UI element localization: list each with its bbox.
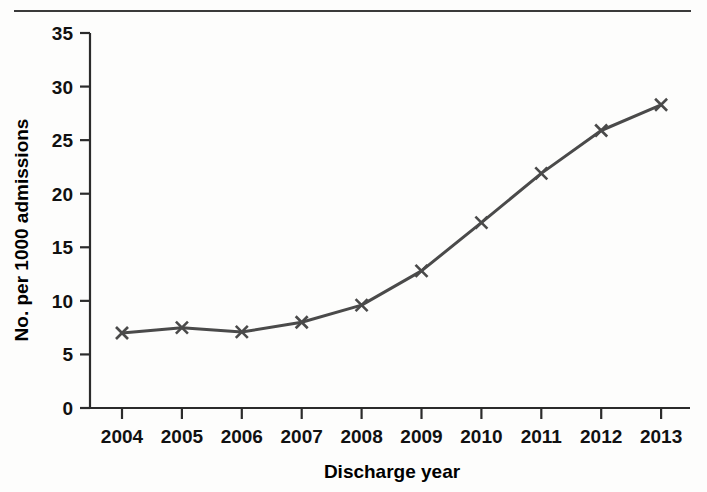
x-axis-tick-label: 2008	[340, 426, 382, 447]
x-axis-tick-label: 2004	[101, 426, 144, 447]
data-series-line	[122, 105, 661, 333]
x-axis-tick-label: 2011	[521, 426, 563, 447]
y-axis	[80, 33, 90, 408]
x-axis-tick-label: 2013	[640, 426, 682, 447]
x-axis-tick-label: 2005	[161, 426, 204, 447]
data-point-markers	[116, 99, 667, 339]
data-point-marker	[416, 265, 428, 277]
data-point-marker	[535, 167, 547, 179]
data-point-marker	[475, 217, 487, 229]
x-axis-tick-labels: 2004200520062007200820092010201120122013	[101, 426, 682, 447]
data-point-marker	[655, 99, 667, 111]
line-chart: 05101520253035 2004200520062007200820092…	[0, 0, 707, 492]
series-line	[122, 105, 661, 333]
x-axis-tick-label: 2012	[580, 426, 622, 447]
y-axis-tick-label: 30	[52, 77, 73, 98]
y-axis-tick-label: 20	[52, 184, 73, 205]
y-axis-tick-label: 0	[62, 398, 73, 419]
y-axis-tick-labels: 05101520253035	[52, 23, 74, 419]
chart-figure: 05101520253035 2004200520062007200820092…	[0, 0, 707, 492]
y-axis-tick-label: 10	[52, 291, 73, 312]
y-axis-tick-label: 25	[52, 130, 74, 151]
y-axis-tick-label: 5	[62, 344, 73, 365]
y-axis-tick-label: 35	[52, 23, 74, 44]
y-axis-tick-label: 15	[52, 237, 74, 258]
x-axis-tick-label: 2006	[221, 426, 263, 447]
x-axis-tick-label: 2010	[460, 426, 502, 447]
x-axis-tick-label: 2007	[281, 426, 323, 447]
data-point-marker	[595, 125, 607, 137]
x-axis-tick-label: 2009	[400, 426, 442, 447]
x-axis-title: Discharge year	[324, 461, 461, 482]
x-axis	[90, 408, 690, 419]
y-axis-title: No. per 1000 admissions	[11, 119, 32, 342]
